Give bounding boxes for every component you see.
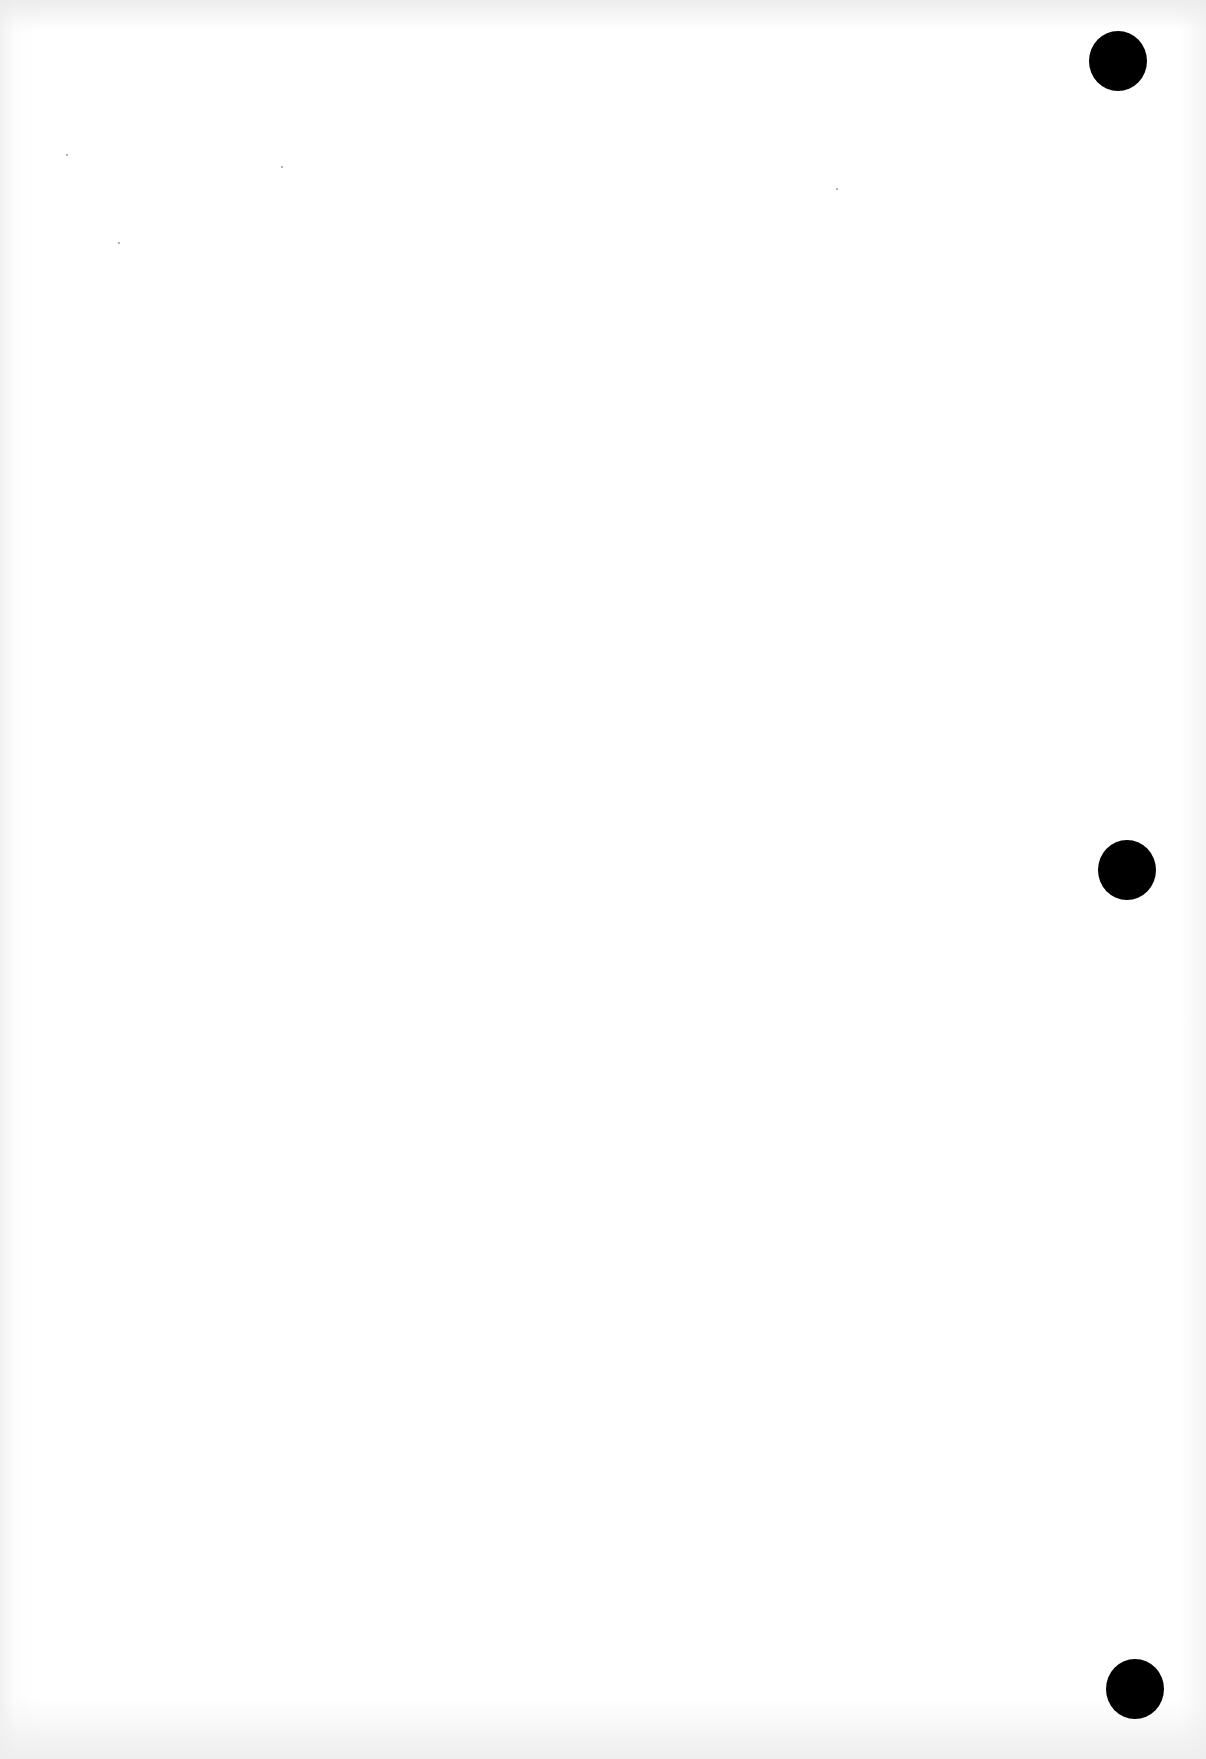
punch-hole-bottom	[1106, 1659, 1164, 1719]
scan-speck	[281, 166, 283, 168]
punch-hole-middle	[1098, 840, 1156, 900]
blank-page	[0, 0, 1206, 1759]
scan-top-edge-shadow	[0, 0, 1206, 30]
scan-speck	[118, 242, 120, 244]
scan-bottom-edge-shadow	[0, 1699, 1206, 1759]
scan-speck	[66, 154, 68, 156]
punch-hole-top	[1089, 31, 1147, 91]
scan-speck	[836, 188, 838, 190]
